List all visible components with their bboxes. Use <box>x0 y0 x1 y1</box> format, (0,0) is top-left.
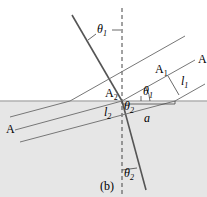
l1-arrow <box>168 76 179 95</box>
wavefront-3 <box>175 84 205 101</box>
theta1-top-label: θ1 <box>97 22 107 38</box>
refraction-diagram: θ1 A1 A l1 θ1 A2 θ2 l2 a A θ2 (b) <box>0 0 207 197</box>
l2-label: l2 <box>104 105 111 121</box>
l1-label: l1 <box>181 74 188 90</box>
A2-label: A2 <box>105 86 118 102</box>
theta1-inner-label: θ1 <box>143 84 153 100</box>
panel-label: (b) <box>100 179 114 194</box>
A-right-label: A <box>198 52 207 67</box>
theta1-top-arc <box>88 34 96 40</box>
A-left-label: A <box>6 122 15 137</box>
theta2-inner-label: θ2 <box>124 99 134 115</box>
theta2-bottom-label: θ2 <box>124 166 134 182</box>
A1-label: A1 <box>155 62 168 78</box>
a-label: a <box>144 111 150 126</box>
wavefront-1 <box>70 36 185 101</box>
